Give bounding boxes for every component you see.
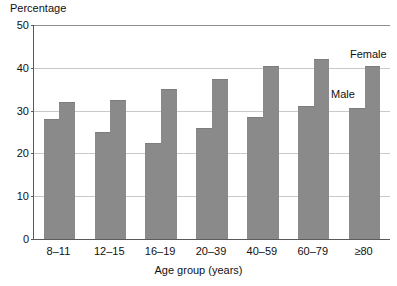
x-axis-tick-label: ≥80: [338, 244, 389, 258]
x-axis-title: Age group (years): [0, 264, 397, 277]
series-annotation-male: Male: [331, 88, 355, 100]
bar-group: [95, 25, 127, 239]
y-axis-tick-label: 0: [23, 234, 29, 245]
x-axis-tick-labels: 8–1112–1516–1920–3940–5960–79≥80: [33, 244, 390, 260]
x-axis-tick-label: 12–15: [84, 244, 135, 258]
y-axis-tick-label: 40: [17, 62, 29, 73]
plot-area: 01020304050: [33, 25, 390, 240]
bar-group: [44, 25, 76, 239]
bar-female-2: [161, 89, 177, 239]
series-annotation-female: Female: [350, 48, 387, 60]
bar-male-2: [145, 143, 161, 239]
bar-group: [298, 25, 330, 239]
bar-female-1: [110, 100, 126, 239]
y-axis-tick-label: 30: [17, 105, 29, 116]
x-axis-tick-label: 40–59: [236, 244, 287, 258]
bar-male-6: [349, 108, 365, 239]
bar-male-5: [298, 106, 314, 239]
bar-female-0: [59, 102, 75, 239]
x-axis-tick-label: 8–11: [33, 244, 84, 258]
bar-group: [196, 25, 228, 239]
bar-male-3: [196, 128, 212, 239]
bar-female-6: [365, 66, 381, 239]
bar-group: [145, 25, 177, 239]
bar-female-3: [212, 79, 228, 240]
y-axis-tick-label: 10: [17, 191, 29, 202]
x-axis-tick-label: 16–19: [135, 244, 186, 258]
bar-female-4: [263, 66, 279, 239]
y-axis-tick-mark: [31, 239, 34, 240]
bar-male-4: [247, 117, 263, 239]
bar-chart: Percentage 01020304050 Female Male 8–111…: [0, 0, 397, 286]
bar-male-1: [95, 132, 111, 239]
x-axis-tick-label: 60–79: [287, 244, 338, 258]
bars-layer: [34, 25, 390, 239]
x-axis-tick-label: 20–39: [186, 244, 237, 258]
y-axis-tick-label: 20: [17, 148, 29, 159]
bar-female-5: [314, 59, 330, 239]
y-axis-tick-label: 50: [17, 20, 29, 31]
bar-male-0: [44, 119, 60, 239]
y-axis-title: Percentage: [10, 2, 66, 15]
bar-group: [247, 25, 279, 239]
